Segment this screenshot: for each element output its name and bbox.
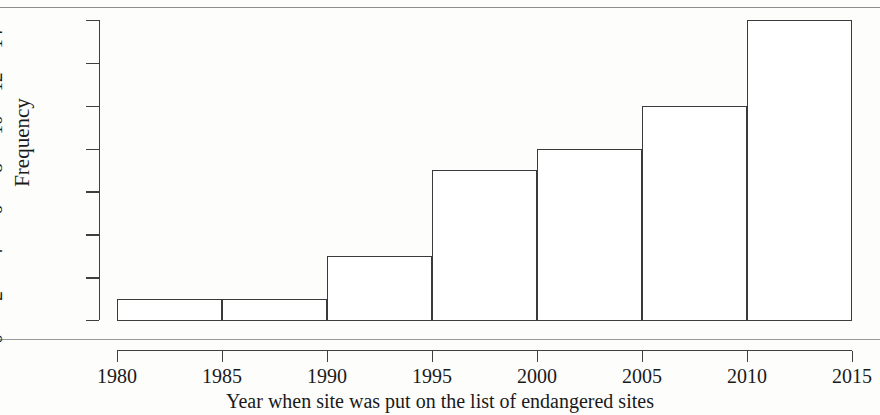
x-axis-tick [222,351,223,362]
x-axis-line [117,350,852,351]
y-axis-tick-label: 10 [0,105,7,145]
histogram-bar [432,170,537,320]
y-axis-title: Frequency [10,83,35,203]
y-axis-tick [86,63,99,64]
bar-baseline [117,320,852,321]
y-axis-line [99,20,100,320]
x-axis-tick [537,351,538,362]
x-axis-tick-label: 1990 [282,365,372,388]
histogram-bar [222,299,327,320]
y-axis-tick-label: 2 [0,276,7,316]
x-axis-tick-label: 2005 [597,365,687,388]
y-axis-tick-label: 8 [0,148,7,188]
page-rule-top [0,7,880,8]
y-axis-tick-label: 12 [0,62,7,102]
x-axis-tick-label: 2010 [702,365,792,388]
y-axis-tick [86,191,99,192]
x-axis-title: Year when site was put on the list of en… [0,390,880,413]
y-axis-tick [86,277,99,278]
x-axis-tick [117,351,118,362]
histogram-figure: 02468101214 Frequency 198019851990199520… [0,0,880,415]
x-axis-tick-label: 1995 [387,365,477,388]
y-axis-tick [86,106,99,107]
x-axis-tick [432,351,433,362]
x-axis-tick [747,351,748,362]
y-axis-tick-label: 14 [0,19,7,59]
histogram-bar [642,106,747,320]
y-axis-tick-label: 0 [0,319,7,359]
y-axis-tick [86,20,99,21]
x-axis-tick [327,351,328,362]
histogram-bar [747,20,852,320]
x-axis-tick-label: 1985 [177,365,267,388]
y-axis-tick [86,149,99,150]
histogram-bar [117,299,222,320]
y-axis-tick-label: 4 [0,233,7,273]
y-axis-tick-label: 6 [0,190,7,230]
x-axis-tick-label: 1980 [72,365,162,388]
histogram-bar [327,256,432,320]
x-axis-tick [852,351,853,362]
histogram-bar [537,149,642,320]
y-axis-tick [86,234,99,235]
y-axis-tick [86,320,99,321]
page-rule-bottom [0,339,880,340]
x-axis-tick-label: 2015 [807,365,880,388]
plot-area [117,20,852,320]
x-axis-tick [642,351,643,362]
x-axis-tick-label: 2000 [492,365,582,388]
